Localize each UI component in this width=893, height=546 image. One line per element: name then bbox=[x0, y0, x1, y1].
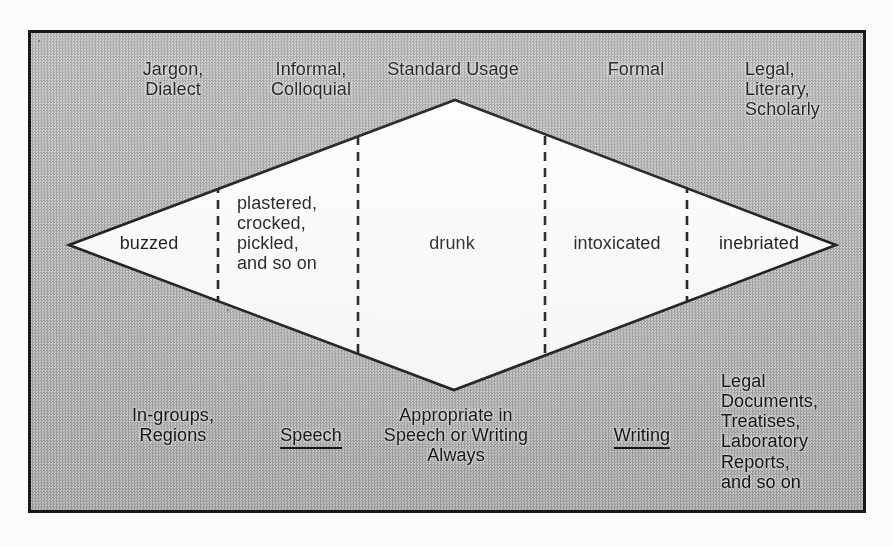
figure-frame: Jargon, Dialect Informal, Colloquial Sta… bbox=[28, 30, 866, 513]
top-label-standard-usage: Standard Usage bbox=[387, 59, 519, 79]
top-label-jargon-dialect: Jargon, Dialect bbox=[143, 59, 204, 99]
top-label-legal-literary-scholarly: Legal, Literary, Scholarly bbox=[745, 59, 820, 119]
bottom-label-writing: Writing bbox=[614, 425, 670, 449]
cell-label-buzzed: buzzed bbox=[120, 233, 179, 253]
cell-label-plastered: plastered, crocked, pickled, and so on bbox=[237, 193, 317, 274]
bottom-label-appropriate: Appropriate in Speech or Writing Always bbox=[384, 405, 528, 465]
bottom-label-speech: Speech bbox=[280, 425, 342, 449]
bottom-label-in-groups-regions: In-groups, Regions bbox=[132, 405, 214, 445]
bottom-label-speech-wrap: Speech bbox=[280, 405, 342, 449]
top-label-formal: Formal bbox=[608, 59, 665, 79]
figure-page: Jargon, Dialect Informal, Colloquial Sta… bbox=[0, 0, 893, 546]
top-label-informal-colloquial: Informal, Colloquial bbox=[271, 59, 351, 99]
cell-label-drunk: drunk bbox=[429, 233, 475, 253]
cell-label-intoxicated: intoxicated bbox=[573, 233, 660, 253]
bottom-label-writing-wrap: Writing bbox=[614, 405, 670, 449]
bottom-label-legal-documents: Legal Documents, Treatises, Laboratory R… bbox=[721, 371, 818, 492]
cell-label-inebriated: inebriated bbox=[719, 233, 799, 253]
